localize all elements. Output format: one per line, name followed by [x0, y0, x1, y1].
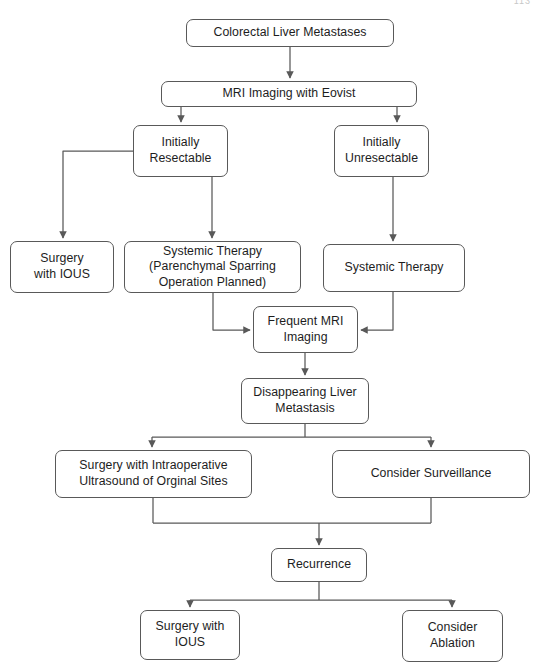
node-consider-ablation[interactable]: Consider Ablation [402, 610, 503, 662]
node-surgery-with-ious-upper[interactable]: Surgery with IOUS [10, 241, 114, 293]
edge-recurrence-bus [190, 582, 452, 600]
node-label: Surgery with Intraoperative Ultrasound o… [61, 458, 246, 489]
node-label: Recurrence [277, 557, 361, 573]
node-label: Initially Unresectable [340, 135, 423, 166]
edge-systemic-parenchymal-to-frequent-mri [213, 293, 250, 330]
flowchart-canvas: 113 [0, 0, 537, 666]
node-frequent-mri-imaging[interactable]: Frequent MRI Imaging [253, 306, 358, 353]
node-surgery-with-intraoperative-ultrasound[interactable]: Surgery with Intraoperative Ultrasound o… [55, 450, 252, 498]
node-systemic-therapy[interactable]: Systemic Therapy [323, 244, 465, 292]
node-label: MRI Imaging with Eovist [167, 86, 411, 102]
node-initially-unresectable[interactable]: Initially Unresectable [334, 125, 429, 177]
node-label: Consider Surveillance [338, 466, 524, 482]
node-recurrence[interactable]: Recurrence [271, 548, 367, 582]
node-label: Frequent MRI Imaging [259, 314, 352, 345]
edge-disappearing-bus [152, 424, 431, 437]
node-mri-imaging-with-eovist[interactable]: MRI Imaging with Eovist [161, 81, 417, 107]
node-label: Consider Ablation [408, 620, 497, 651]
node-label: Systemic Therapy (Parenchymal Sparring O… [130, 244, 295, 291]
node-colorectal-liver-metastases[interactable]: Colorectal Liver Metastases [186, 19, 394, 47]
node-initially-resectable[interactable]: Initially Resectable [133, 125, 228, 177]
edge-systemic-to-frequent-mri [361, 292, 393, 330]
node-label: Initially Resectable [139, 135, 222, 166]
node-label: Disappearing Liver Metastasis [247, 385, 363, 416]
node-disappearing-liver-metastasis[interactable]: Disappearing Liver Metastasis [241, 378, 369, 424]
node-label: Systemic Therapy [329, 260, 459, 276]
node-systemic-therapy-parenchymal[interactable]: Systemic Therapy (Parenchymal Sparring O… [124, 241, 301, 293]
node-consider-surveillance[interactable]: Consider Surveillance [332, 450, 530, 498]
page-number: 113 [514, 0, 531, 6]
node-label: Colorectal Liver Metastases [192, 25, 388, 41]
edge-resectable-to-surgery-ious [63, 151, 133, 238]
node-label: Surgery with IOUS [146, 619, 234, 650]
node-surgery-with-ious-lower[interactable]: Surgery with IOUS [140, 610, 240, 660]
node-label: Surgery with IOUS [16, 251, 108, 282]
